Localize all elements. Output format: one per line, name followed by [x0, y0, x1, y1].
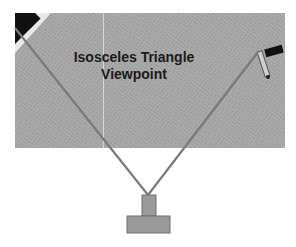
left-sight-line — [15, 28, 148, 195]
camera-icon — [127, 195, 170, 233]
sight-lines — [0, 0, 296, 247]
right-sight-line — [148, 52, 258, 195]
